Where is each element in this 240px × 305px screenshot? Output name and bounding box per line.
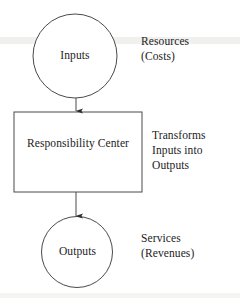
annotation-transforms: Transforms Inputs into Outputs — [152, 128, 206, 173]
node-label-responsibility-center-line2: Center — [98, 137, 129, 149]
annotation-services-revenues-line2: (Revenues) — [141, 246, 194, 261]
annotation-resources-costs: Resources (Costs) — [141, 34, 189, 64]
annotation-services-revenues-line1: Services — [141, 231, 194, 246]
annotation-services-revenues: Services (Revenues) — [141, 231, 194, 261]
node-label-outputs: Outputs — [42, 244, 113, 259]
diagram-canvas: Inputs Responsibility Center Outputs Res… — [0, 0, 240, 305]
node-responsibility-center-box — [14, 112, 142, 192]
annotation-resources-costs-line1: Resources — [141, 34, 189, 49]
annotation-transforms-line1: Transforms — [152, 128, 206, 143]
annotation-transforms-line3: Outputs — [152, 158, 206, 173]
node-label-responsibility-center: Responsibility Center — [14, 136, 142, 151]
annotation-transforms-line2: Inputs into — [152, 143, 206, 158]
node-label-responsibility-center-line1: Responsibility — [27, 137, 95, 149]
annotation-resources-costs-line2: (Costs) — [141, 49, 189, 64]
node-label-inputs: Inputs — [33, 48, 117, 63]
